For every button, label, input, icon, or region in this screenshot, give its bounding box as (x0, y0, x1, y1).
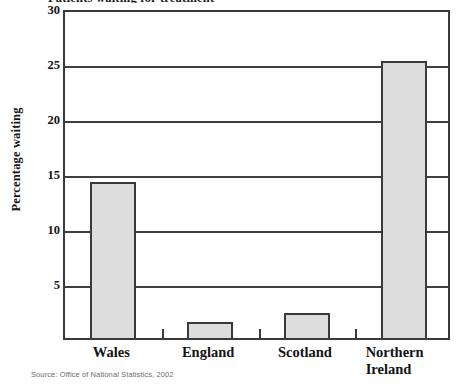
x-tick-label-line1: Scotland (257, 344, 354, 361)
y-axis-tick-labels: 30252015105 (30, 0, 60, 350)
x-tick-label-1: Wales (63, 344, 160, 361)
y-axis-title: Percentage waiting (4, 66, 28, 252)
y-tick-label-5: 5 (30, 279, 60, 291)
bar-northern-ireland (381, 61, 427, 338)
x-axis-tick-3 (355, 329, 357, 338)
bar-scotland (284, 313, 330, 338)
y-axis-title-text: Percentage waiting (9, 107, 24, 211)
x-tick-label-line1: England (160, 344, 257, 361)
plot-area (63, 10, 450, 340)
chart-title: Patients waiting for treatment (48, 0, 308, 3)
y-tick-label-15: 15 (30, 169, 60, 181)
x-tick-label-line1: Northern (366, 344, 456, 361)
y-tick-label-20: 20 (30, 114, 60, 126)
x-axis-tick-2 (259, 329, 261, 338)
bar-chart-figure: Patients waiting for treatment Percentag… (0, 0, 463, 391)
bar-wales (90, 182, 136, 338)
x-tick-label-4: NorthernIreland (366, 344, 456, 377)
bar-series (65, 12, 448, 338)
y-tick-label-10: 10 (30, 224, 60, 236)
x-tick-label-3: Scotland (257, 344, 354, 361)
x-tick-label-line1: Wales (63, 344, 160, 361)
x-axis-tick-labels: WalesEnglandScotlandNorthernIreland (63, 344, 450, 386)
y-tick-label-25: 25 (30, 59, 60, 71)
x-axis-tick-1 (162, 329, 164, 338)
x-tick-label-2: England (160, 344, 257, 361)
bar-england (187, 322, 233, 339)
x-tick-label-line2: Ireland (366, 361, 456, 378)
y-tick-label-30: 30 (30, 4, 60, 16)
source-note: Source: Office of National Statistics, 2… (31, 370, 174, 379)
